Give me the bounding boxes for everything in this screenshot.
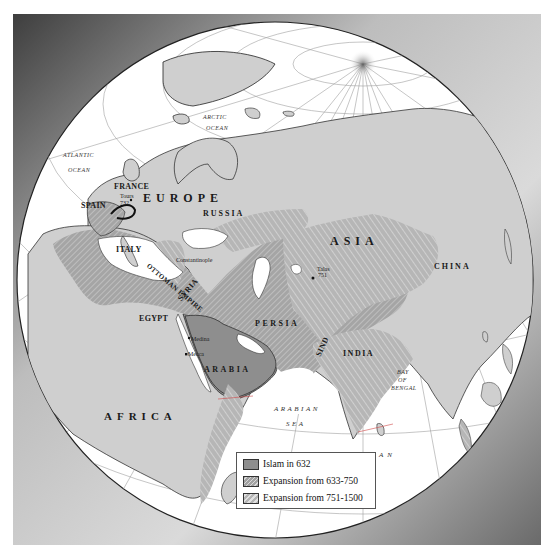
swatch-hatch-icon xyxy=(243,493,259,504)
tours-marker xyxy=(130,199,132,201)
label-arabian-sea-1: ARABIAN xyxy=(274,405,320,413)
legend-item-expansion-633-750: Expansion from 633-750 xyxy=(243,473,369,489)
label-tours: Tours xyxy=(120,193,134,199)
label-france: FRANCE xyxy=(114,182,149,191)
talas-marker xyxy=(312,277,315,280)
swatch-solid-icon xyxy=(243,459,259,470)
label-arctic-ocean-2: OCEAN xyxy=(206,125,228,131)
label-atlantic-ocean-1: ATLANTIC xyxy=(63,152,94,158)
label-spain: SPAIN xyxy=(81,201,106,210)
label-constantinople: Constantinople xyxy=(176,257,212,263)
label-egypt: EGYPT xyxy=(139,314,168,323)
label-europe: EUROPE xyxy=(143,191,223,206)
label-china: CHINA xyxy=(434,262,471,271)
legend-label: Expansion from 751-1500 xyxy=(263,493,363,503)
label-atlantic-ocean-2: OCEAN xyxy=(68,167,90,173)
label-africa: AFRICA xyxy=(104,410,177,422)
legend-label: Expansion from 633-750 xyxy=(263,476,358,486)
medina-marker xyxy=(188,337,190,339)
label-medina: Medina xyxy=(191,336,209,342)
label-russia: RUSSIA xyxy=(203,209,244,218)
label-arabia: ARABIA xyxy=(204,365,251,374)
legend-label: Islam in 632 xyxy=(263,459,311,469)
label-mecca: Mecca xyxy=(188,351,204,357)
label-bay-1: BAY xyxy=(397,369,409,375)
label-bay-2: OF xyxy=(398,377,407,383)
swatch-fine-hatch-icon xyxy=(243,476,259,487)
map-legend: Islam in 632 Expansion from 633-750 Expa… xyxy=(236,452,376,509)
label-india: INDIA xyxy=(343,349,374,358)
label-talas-year: 751 xyxy=(318,272,327,278)
label-bay-3: BENGAL xyxy=(391,385,417,391)
legend-item-islam-632: Islam in 632 xyxy=(243,456,369,472)
label-arctic-ocean-1: ARCTIC xyxy=(203,114,227,120)
label-asia: ASIA xyxy=(330,234,379,249)
label-arabian-sea-2: SEA xyxy=(286,420,306,428)
label-persia: PERSIA xyxy=(255,319,299,328)
label-italy: ITALY xyxy=(116,245,142,254)
legend-item-expansion-751-1500: Expansion from 751-1500 xyxy=(243,490,369,506)
label-tours-year: 732 xyxy=(120,200,129,206)
map-frame: ARCTIC OCEAN ATLANTIC OCEAN FRANCE Tours… xyxy=(13,14,541,545)
britain xyxy=(123,159,139,181)
